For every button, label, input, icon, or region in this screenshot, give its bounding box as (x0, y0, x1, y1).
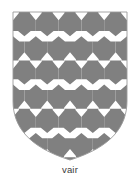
vair-bell (0, 181, 2, 193)
heraldry-figure: vair (0, 0, 140, 193)
vair-bell (2, 133, 25, 157)
vair-bell (2, 181, 25, 193)
vair-bell (0, 133, 2, 157)
vair-bell (0, 60, 13, 84)
vair-bell (0, 12, 13, 36)
vair-bell (0, 85, 2, 109)
vair-bell (127, 60, 140, 84)
vair-bell (138, 181, 140, 193)
vair-bell (138, 36, 140, 60)
vair-bell (70, 181, 93, 193)
vair-bell (127, 109, 140, 133)
vair-bell (0, 109, 13, 133)
vair-bell (127, 12, 140, 36)
figure-caption: vair (0, 164, 140, 176)
vair-bell (47, 181, 70, 193)
vair-bell (0, 36, 2, 60)
vair-bell (116, 181, 139, 193)
vair-bell (116, 133, 139, 157)
vair-bell (138, 133, 140, 157)
vair-bell (138, 85, 140, 109)
vair-bell (93, 181, 116, 193)
vair-bell (24, 181, 47, 193)
